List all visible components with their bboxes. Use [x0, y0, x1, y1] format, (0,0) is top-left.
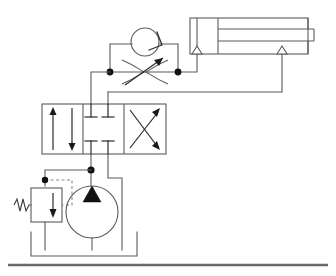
pump-flow-triangle: [83, 186, 101, 202]
check-valve-seat: [149, 32, 162, 50]
pipe-bypass-left: [110, 44, 132, 72]
hydraulic-circuit-diagram: Hydraulic Circuit Diagram: [0, 0, 336, 276]
relief-valve-spring: [14, 199, 29, 211]
reservoir-tank: [31, 232, 137, 256]
valve-arrow-down-head: [69, 143, 76, 151]
valve-position-closed-center: [85, 104, 114, 154]
relief-valve-body: [31, 188, 62, 222]
cylinder-port-rod-marker: [277, 46, 287, 54]
fixed-displacement-pump: [66, 186, 118, 250]
pressure-relief-valve: [14, 177, 72, 250]
pipe-rod-end-to-valve-b: [108, 54, 282, 92]
valve-body: [42, 104, 166, 154]
check-valve: [110, 28, 178, 72]
valve-arrow-up-head: [50, 107, 57, 115]
cylinder-port-cap-marker: [192, 46, 202, 54]
schematic-canvas: [0, 0, 336, 276]
pipe-cap-end-to-junction-b: [178, 54, 197, 72]
check-valve-ball: [131, 28, 159, 56]
valve-position-crossed: [130, 108, 160, 150]
junction-node-pilot: [42, 177, 48, 183]
cylinder-port-piping: [108, 54, 282, 92]
relief-valve-arrow-head: [50, 209, 57, 218]
directional-control-valve-4-3: [42, 104, 166, 154]
cylinder-barrel: [190, 18, 308, 54]
valve-position-parallel: [50, 107, 76, 151]
pipe-junction-a-to-valve-port-a: [91, 72, 110, 104]
pipe-pressure-to-relief-valve: [45, 170, 91, 186]
valve-cross-arrow-2-shaft: [130, 110, 157, 146]
adjustable-flow-control-valve: [110, 58, 178, 85]
double-acting-cylinder: [190, 18, 314, 54]
valve-riser-lines: [91, 72, 110, 104]
junction-node-b: [175, 69, 182, 76]
pipe-valve-t-to-tank: [108, 154, 122, 250]
valve-cross-arrow-1-head: [152, 108, 160, 117]
throttle-adjust-arrowhead: [154, 58, 163, 66]
reservoir-outline: [31, 232, 137, 256]
valve-cross-arrow-2-head: [152, 141, 160, 150]
